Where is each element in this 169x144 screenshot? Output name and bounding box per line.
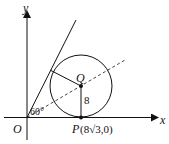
x-axis-label: x: [159, 113, 166, 127]
y-axis-label: y: [22, 1, 29, 15]
origin-label: O: [13, 122, 22, 136]
point-p: [79, 116, 83, 120]
point-p-label: P: [71, 122, 80, 136]
center-q-label: Q: [76, 71, 85, 85]
geometry-diagram: y x O Q 8 60° P (8√3,0): [0, 0, 169, 144]
angle-label: 60°: [30, 106, 44, 117]
point-p-coords: (8√3,0): [80, 123, 113, 136]
radius-value-label: 8: [84, 94, 90, 106]
